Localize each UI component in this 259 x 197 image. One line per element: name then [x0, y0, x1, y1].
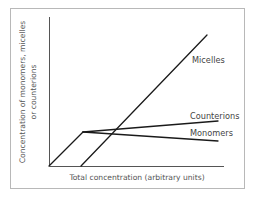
figure-frame — [11, 9, 245, 189]
y-axis-label-line1: Concentration of monomers, micelles — [18, 21, 27, 164]
micelles-line — [81, 35, 207, 166]
y-axis-label: Concentration of monomers, micelles or c… — [18, 21, 38, 164]
pre-cmc-rise-line — [49, 132, 83, 166]
monomers-label: Monomers — [190, 128, 233, 138]
micelles-label: Micelles — [192, 55, 225, 65]
counterions-label: Counterions — [190, 111, 239, 121]
y-axis-label-line2: or counterions — [29, 65, 38, 120]
micelle-concentration-diagram: Micelles Counterions Monomers Total conc… — [0, 0, 259, 197]
x-axis-label: Total concentration (arbitrary units) — [68, 173, 204, 182]
